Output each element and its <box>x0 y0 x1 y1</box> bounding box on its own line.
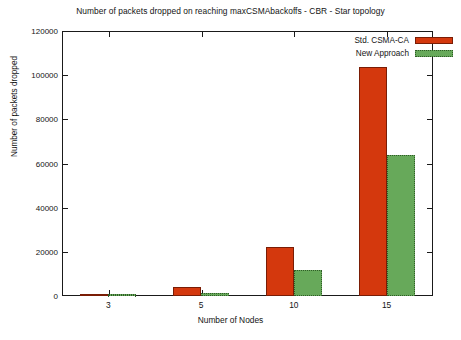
y-axis-tick-label: 120000 <box>31 27 58 36</box>
legend-swatch-icon <box>415 50 453 57</box>
chart-legend: Std. CSMA-CA New Approach <box>354 34 453 59</box>
y-axis-tick-mark <box>427 252 432 253</box>
y-axis-tick-mark <box>63 119 68 120</box>
plot-area <box>62 31 433 296</box>
y-axis-tick-mark <box>63 164 68 165</box>
legend-item[interactable]: New Approach <box>356 47 453 59</box>
x-axis-tick-mark <box>202 32 203 37</box>
y-axis-tick-label: 20000 <box>36 247 58 256</box>
y-axis-tick-label: 40000 <box>36 203 58 212</box>
y-axis-tick-label: 60000 <box>36 159 58 168</box>
x-axis-tick-mark <box>387 290 388 295</box>
x-axis-tick-label: 15 <box>382 300 391 310</box>
x-axis-tick-mark <box>294 290 295 295</box>
legend-label: New Approach <box>356 49 409 58</box>
y-axis-tick-mark <box>427 119 432 120</box>
x-axis-tick-mark <box>109 32 110 37</box>
chart-title: Number of packets dropped on reaching ma… <box>0 6 461 16</box>
x-axis-tick-label: 10 <box>289 300 298 310</box>
y-axis-tick-mark <box>427 164 432 165</box>
y-axis-tick-label: 100000 <box>31 71 58 80</box>
y-axis-tick-mark <box>427 75 432 76</box>
legend-label: Std. CSMA-CA <box>354 36 409 45</box>
x-axis-tick-mark <box>294 32 295 37</box>
x-axis-tick-label: 5 <box>199 300 204 310</box>
y-axis-tick-mark <box>63 252 68 253</box>
y-axis-tick-label: 80000 <box>36 115 58 124</box>
y-axis-tick-mark <box>427 208 432 209</box>
y-axis-tick-mark <box>63 208 68 209</box>
y-axis-title: Number of packets dropped <box>10 37 19 177</box>
x-axis-tick-label: 3 <box>106 300 111 310</box>
x-axis-tick-mark <box>109 290 110 295</box>
chart-root: Number of packets dropped on reaching ma… <box>0 0 461 340</box>
x-axis-title: Number of Nodes <box>0 315 461 325</box>
y-axis-tick-label: 0 <box>54 292 58 301</box>
y-axis-tick-mark <box>63 75 68 76</box>
legend-item[interactable]: Std. CSMA-CA <box>354 34 453 46</box>
legend-swatch-icon <box>415 37 453 44</box>
x-axis-tick-mark <box>202 290 203 295</box>
